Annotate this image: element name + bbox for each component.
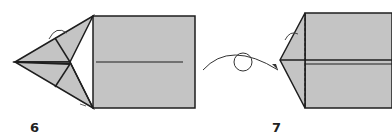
turn-over-arrow-icon	[203, 53, 278, 71]
step-6-model	[15, 16, 195, 108]
step-number-6: 6	[30, 120, 39, 135]
step-number-7: 7	[272, 120, 281, 135]
step-7-model	[280, 13, 392, 108]
origami-diagram	[0, 0, 392, 137]
